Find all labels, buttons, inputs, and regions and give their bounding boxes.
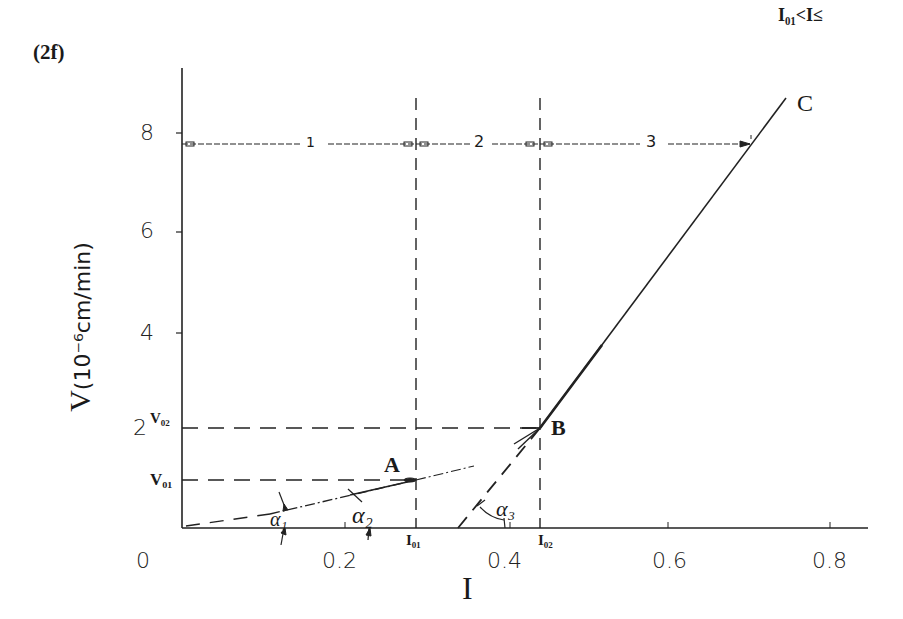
v02-label: V₀₂ (150, 410, 170, 427)
region-1-label: 1 (306, 134, 315, 150)
region-3-label: 3 (646, 132, 656, 151)
y-axis-title-unit: (10⁻⁶cm/min) (70, 242, 95, 390)
x-tick-0.2: 0.2 (322, 548, 357, 573)
x-tick-0.6: 0.6 (652, 548, 687, 573)
alpha2-marker (348, 489, 362, 502)
x-tick-0.4: 0.4 (487, 548, 522, 573)
y-tick-2: 2 (133, 415, 147, 440)
y-tick-4: 4 (140, 320, 154, 345)
segment-a-extension (416, 466, 474, 480)
alpha3-label: α₃ (496, 496, 515, 522)
region-2-label: 2 (474, 132, 484, 151)
alpha2-label: α₂ (352, 502, 373, 529)
i01-label: I₀₁ (406, 532, 421, 549)
x-tick-0: 0 (136, 548, 150, 573)
y-tick-6: 6 (140, 218, 154, 243)
point-a-label: A (384, 452, 400, 478)
i02-label: I₀₂ (538, 532, 553, 549)
segment-oa (186, 514, 270, 526)
alpha1-label: α₁ (270, 508, 287, 531)
y-tick-8: 8 (140, 120, 154, 145)
v01-label: V₀₁ (150, 470, 172, 490)
point-b-label: B (551, 415, 566, 441)
y-axis-title-main: V (63, 390, 96, 412)
x-axis-title: I (462, 570, 473, 607)
chart-plot (0, 0, 903, 619)
y-axis-title: V(10⁻⁶cm/min) (63, 207, 97, 447)
point-c-label: C (797, 90, 813, 117)
point-a-marker (404, 478, 416, 482)
x-tick-0.8: 0.8 (812, 548, 847, 573)
